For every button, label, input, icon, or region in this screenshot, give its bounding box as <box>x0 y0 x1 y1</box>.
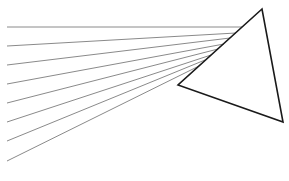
light-ray-3 <box>7 38 230 65</box>
light-ray-2 <box>7 33 236 46</box>
light-rays <box>7 27 242 161</box>
light-ray-7 <box>7 60 205 141</box>
light-ray-4 <box>7 44 224 84</box>
light-ray-5 <box>7 49 218 103</box>
light-ray-8 <box>7 66 199 161</box>
prism-diagram <box>0 0 289 181</box>
prism-triangle <box>178 9 283 122</box>
